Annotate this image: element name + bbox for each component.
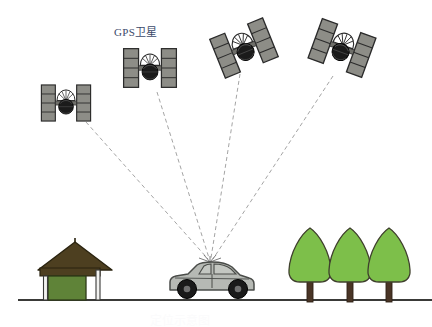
pavilion-post-left [44,276,48,300]
signal-lines-group [86,74,333,259]
satellite-4 [308,19,376,78]
pavilion-eave [40,268,100,276]
tree-1 [289,228,331,302]
pavilion-wall [48,276,86,300]
signal-line-sat-1 [86,122,208,259]
gps-positioning-diagram: GPS卫星 定位示意图 [0,0,432,327]
satellite-2 [124,49,177,88]
signal-line-sat-3 [211,74,240,258]
satellites-group [41,18,376,121]
diagram-canvas [0,0,432,327]
pavilion-post-right [96,270,100,300]
car [170,255,254,299]
tree-3 [368,228,410,302]
satellite-3 [210,18,279,78]
satellite-1 [41,85,90,121]
trees-group [289,228,410,302]
gps-satellite-label: GPS卫星 [114,23,158,39]
pavilion-roof [38,242,112,270]
faint-caption: 定位示意图 [150,311,210,327]
signal-line-sat-2 [157,92,209,258]
tree-2 [329,228,371,302]
pavilion [38,238,112,300]
